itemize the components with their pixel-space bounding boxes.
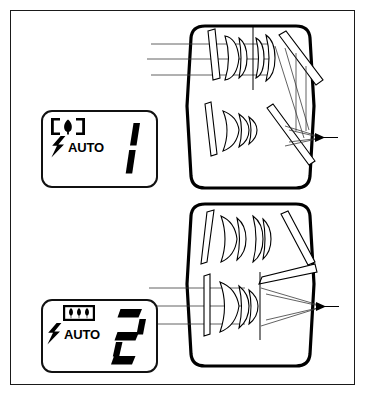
- front-plate-upper: [208, 29, 220, 80]
- optical-diagram-1-svg: [163, 18, 338, 198]
- lcd-digit-value-one: [118, 121, 144, 177]
- lcd-digit-value-two: [112, 308, 146, 366]
- lcd-indicator-group-two: AUTO: [63, 305, 100, 345]
- front-plate-lower: [204, 274, 210, 336]
- lcd-panel-mode-one[interactable]: AUTO: [41, 110, 158, 188]
- retracted-lens-group-two: [253, 216, 271, 262]
- lens-group-one-upper: [225, 36, 247, 80]
- eyepiece-lens-group: [223, 111, 257, 151]
- flash-auto-label: AUTO: [64, 328, 100, 341]
- rear-plate-lower: [205, 102, 217, 156]
- flash-mode-row-two: AUTO: [47, 323, 100, 345]
- optical-path-diagram-wide: [163, 18, 338, 198]
- optical-diagram-2-svg: [163, 196, 338, 376]
- lightning-bolt-icon: [51, 136, 66, 158]
- lightning-bolt-icon: [47, 323, 62, 345]
- retracted-lens-group-one: [221, 216, 246, 262]
- incoming-rays-upper: [147, 44, 271, 75]
- lcd-panel-mode-two[interactable]: AUTO: [41, 299, 158, 373]
- optical-path-diagram-tele: [163, 196, 338, 376]
- figure-root: AUTO: [0, 0, 367, 397]
- seven-segment-digit-2: [112, 308, 146, 366]
- eyepoint-arrow-marker: [315, 133, 338, 142]
- retracted-plate-upper: [201, 210, 214, 264]
- single-tree-bracket-icon: [51, 118, 85, 135]
- lens-group-two-upper: [256, 35, 275, 81]
- fold-mirror-mid: [259, 264, 317, 284]
- seven-segment-digit-1: [118, 121, 144, 177]
- eyepoint-arrow-marker: [316, 302, 339, 311]
- three-trees-box-icon: [63, 305, 95, 321]
- fold-mirror-upper: [279, 31, 323, 85]
- flash-auto-label: AUTO: [68, 141, 104, 154]
- flash-mode-row-one: AUTO: [51, 136, 104, 158]
- lcd-indicator-group-one: AUTO: [51, 118, 104, 158]
- main-lens-group-lower: [220, 282, 258, 332]
